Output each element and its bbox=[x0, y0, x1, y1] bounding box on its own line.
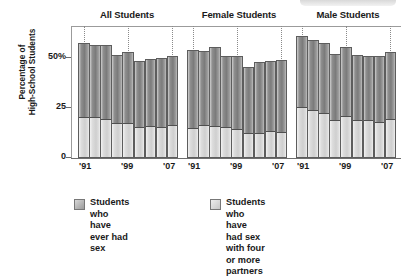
x-label-female-91: '91 bbox=[188, 161, 200, 171]
bar-female-students-1993[interactable] bbox=[198, 51, 210, 158]
bar-group-female-students bbox=[187, 26, 287, 158]
x-label-male-91: '91 bbox=[297, 161, 309, 171]
bar-male-students-1993[interactable] bbox=[307, 40, 319, 158]
bar-female-students-1997[interactable] bbox=[220, 56, 232, 158]
legend-label-ever-had-sex: Students who have ever had sex bbox=[90, 197, 129, 255]
reference-dotted-line bbox=[302, 26, 303, 35]
bar-all-students-1997[interactable] bbox=[111, 55, 123, 158]
x-label-female-99: '99 bbox=[230, 161, 242, 171]
reference-dotted-line bbox=[193, 26, 194, 49]
reference-dotted-line bbox=[281, 26, 282, 59]
reference-dotted-line bbox=[84, 26, 85, 42]
y-tick-label-0: 0 bbox=[32, 151, 66, 161]
bar-all-students-2001[interactable] bbox=[134, 61, 146, 158]
bar-segment-four-or-more-partners bbox=[386, 119, 396, 157]
bar-female-students-1995[interactable] bbox=[209, 47, 221, 158]
bar-segment-four-or-more-partners bbox=[266, 131, 276, 157]
bar-all-students-2005[interactable] bbox=[156, 58, 168, 158]
group-titles: All Students Female Students Male Studen… bbox=[72, 9, 402, 23]
x-label-all-07: '07 bbox=[163, 161, 175, 171]
bar-segment-four-or-more-partners bbox=[330, 120, 340, 157]
y-axis-title: Percentage of High-School Students bbox=[17, 14, 37, 130]
x-label-male-07: '07 bbox=[381, 161, 393, 171]
legend-swatch-icon-ever-had-sex bbox=[74, 199, 85, 210]
bar-segment-four-or-more-partners bbox=[277, 132, 287, 157]
bar-segment-four-or-more-partners bbox=[79, 117, 89, 157]
bar-segment-four-or-more-partners bbox=[244, 133, 254, 157]
bar-segment-four-or-more-partners bbox=[364, 120, 374, 157]
bar-group-all-students bbox=[78, 26, 178, 158]
x-label-female-07: '07 bbox=[272, 161, 284, 171]
group-title-male-students: Male Students bbox=[294, 9, 402, 20]
bar-female-students-2003[interactable] bbox=[254, 62, 266, 158]
x-axis-line bbox=[71, 158, 401, 159]
reference-dotted-line bbox=[128, 26, 129, 51]
reference-dotted-line bbox=[346, 26, 347, 46]
bar-male-students-1991[interactable] bbox=[296, 36, 308, 158]
bar-segment-four-or-more-partners bbox=[297, 107, 307, 157]
bar-segment-four-or-more-partners bbox=[157, 127, 167, 157]
reference-dotted-line bbox=[172, 26, 173, 55]
x-label-male-99: '99 bbox=[339, 161, 351, 171]
bar-segment-four-or-more-partners bbox=[199, 125, 209, 157]
bar-segment-four-or-more-partners bbox=[308, 110, 318, 157]
bar-all-students-1993[interactable] bbox=[89, 45, 101, 158]
bar-segment-four-or-more-partners bbox=[255, 133, 265, 157]
bar-male-students-1997[interactable] bbox=[329, 54, 341, 158]
x-label-all-99: '99 bbox=[121, 161, 133, 171]
bar-segment-four-or-more-partners bbox=[188, 128, 198, 157]
group-title-female-students: Female Students bbox=[184, 9, 294, 20]
bar-segment-four-or-more-partners bbox=[168, 125, 178, 157]
bar-all-students-2007[interactable] bbox=[167, 56, 179, 158]
y-tick-label-50: 50% bbox=[32, 51, 66, 61]
bar-segment-four-or-more-partners bbox=[353, 120, 363, 157]
bar-all-students-1999[interactable] bbox=[122, 52, 134, 158]
bar-male-students-1995[interactable] bbox=[318, 43, 330, 158]
x-label-all-91: '91 bbox=[79, 161, 91, 171]
bar-segment-four-or-more-partners bbox=[341, 116, 351, 157]
bar-segment-four-or-more-partners bbox=[210, 126, 220, 157]
bar-female-students-1991[interactable] bbox=[187, 50, 199, 158]
bar-female-students-2005[interactable] bbox=[265, 61, 277, 158]
clipped-header-element bbox=[300, 0, 396, 6]
y-tick-0 bbox=[66, 157, 71, 158]
bar-segment-four-or-more-partners bbox=[101, 119, 111, 157]
bar-segment-four-or-more-partners bbox=[375, 122, 385, 157]
bar-segment-four-or-more-partners bbox=[146, 126, 156, 157]
bar-segment-four-or-more-partners bbox=[135, 127, 145, 157]
bar-segment-four-or-more-partners bbox=[319, 113, 329, 157]
bar-segment-four-or-more-partners bbox=[232, 129, 242, 157]
bar-male-students-2001[interactable] bbox=[352, 55, 364, 158]
legend-label-four-or-more-partners: Students who have had sex with four or m… bbox=[226, 197, 265, 278]
group-title-all-students: All Students bbox=[72, 9, 182, 20]
reference-dotted-line bbox=[390, 26, 391, 51]
bar-male-students-2005[interactable] bbox=[374, 56, 386, 158]
bar-male-students-2003[interactable] bbox=[363, 56, 375, 158]
y-tick-25 bbox=[66, 107, 71, 108]
bar-all-students-2003[interactable] bbox=[145, 59, 157, 158]
bar-female-students-1999[interactable] bbox=[231, 56, 243, 158]
y-tick-label-25: 25 bbox=[32, 101, 66, 111]
bar-segment-four-or-more-partners bbox=[112, 123, 122, 157]
reference-dotted-line bbox=[237, 26, 238, 55]
bar-all-students-1995[interactable] bbox=[100, 45, 112, 158]
bar-segment-four-or-more-partners bbox=[123, 123, 133, 157]
bar-all-students-1991[interactable] bbox=[78, 43, 90, 158]
y-tick-50 bbox=[66, 57, 71, 58]
bar-group-male-students bbox=[296, 26, 396, 158]
bar-female-students-2007[interactable] bbox=[276, 60, 288, 158]
bar-segment-four-or-more-partners bbox=[221, 127, 231, 157]
bar-segment-four-or-more-partners bbox=[90, 117, 100, 157]
bar-female-students-2001[interactable] bbox=[243, 67, 255, 158]
bar-male-students-2007[interactable] bbox=[385, 52, 397, 158]
legend-swatch-icon-four-or-more-partners bbox=[210, 199, 221, 210]
bar-male-students-1999[interactable] bbox=[340, 47, 352, 158]
